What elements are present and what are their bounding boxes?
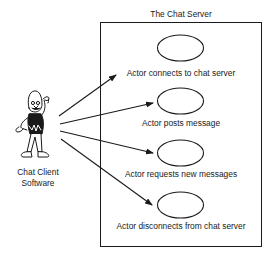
use-case-ellipse-post[interactable] [158,88,204,114]
use-case-label-connect: Actor connects to chat server [101,68,261,78]
actor-label-line1: Chat Client [0,167,76,178]
actor-label-line2: Software [0,178,76,189]
system-boundary-title: The Chat Server [131,9,231,19]
cartoon-actor-icon [16,91,49,157]
use-case-label-request: Actor requests new messages [101,169,261,179]
arrow-to-request [60,131,153,153]
use-case-label-disconnect: Actor disconnects from chat server [101,221,261,231]
diagram-graphics [0,0,273,258]
use-case-label-post: Actor posts message [101,118,261,128]
use-case-ellipse-disconnect[interactable] [158,192,204,218]
actor-label: Chat Client Software [0,167,76,189]
use-case-ellipse-request[interactable] [158,140,204,166]
arrow-to-connect [59,75,116,116]
use-case-diagram: The Chat Server Actor connects to chat s… [0,0,273,258]
use-case-ellipse-connect[interactable] [158,35,204,61]
